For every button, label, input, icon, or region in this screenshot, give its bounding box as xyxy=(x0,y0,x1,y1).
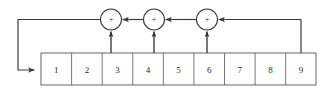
register-cell-8: 8 xyxy=(268,65,273,75)
xor-gate-3: + xyxy=(197,9,218,30)
xor-gate-1: + xyxy=(101,9,122,30)
lfsr-diagram: 1 2 3 4 5 6 7 8 9 xyxy=(0,0,332,90)
register-cell-9: 9 xyxy=(299,65,304,75)
register-cell-7: 7 xyxy=(238,65,243,75)
xor-gate-2-symbol: + xyxy=(152,15,157,24)
register-cell-1: 1 xyxy=(54,65,59,75)
feedback-path-from-stage-9 xyxy=(219,20,302,54)
lfsr-diagram-canvas: 1 2 3 4 5 6 7 8 9 xyxy=(0,0,332,90)
tap-wires xyxy=(111,32,207,54)
xor-gate-1-symbol: + xyxy=(109,15,114,24)
shift-register-box: 1 2 3 4 5 6 7 8 9 xyxy=(41,53,316,85)
xor-gate-3-symbol: + xyxy=(205,15,210,24)
register-cell-6: 6 xyxy=(207,65,212,75)
feedback-path-to-stage-1 xyxy=(18,20,101,71)
register-cell-2: 2 xyxy=(85,65,90,75)
register-cell-4: 4 xyxy=(146,65,151,75)
xor-gate-2: + xyxy=(144,9,165,30)
feedback-wire-left-to-stage1 xyxy=(18,20,101,71)
register-cell-5: 5 xyxy=(176,65,181,75)
register-cell-3: 3 xyxy=(115,65,120,75)
